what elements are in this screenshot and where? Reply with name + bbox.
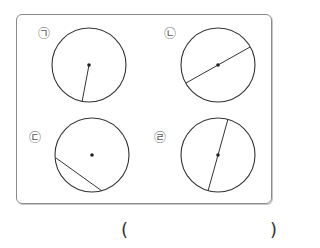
answer-close-paren: ) [270, 221, 277, 239]
answer-blank[interactable] [135, 222, 267, 240]
circle-a-center-dot [87, 63, 91, 67]
circle-c-group [55, 118, 129, 192]
answer-open-paren: ( [121, 221, 128, 239]
circle-b-center-dot [216, 63, 220, 67]
circle-a-group [52, 28, 126, 102]
circle-c-center-dot [90, 153, 94, 157]
circle-d-group [181, 118, 255, 192]
figure-label-c: ㉢ [29, 132, 41, 144]
figure-label-b: ㉡ [164, 28, 176, 40]
circle-d-center-dot [216, 153, 220, 157]
figure-label-a: ㉠ [38, 28, 50, 40]
circle-b-group [181, 28, 255, 102]
circle-c-chord-line [56, 158, 102, 191]
circle-a-radius-line [82, 65, 89, 102]
figure-label-d: ㉣ [154, 132, 166, 144]
